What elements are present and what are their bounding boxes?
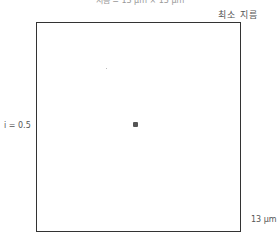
- field-frame: [36, 22, 241, 232]
- scale-label: 13 μm: [251, 215, 277, 224]
- minimum-diameter-label: 최소 지름: [218, 8, 258, 21]
- intensity-label: i = 0.5: [4, 121, 31, 130]
- faint-speck: [106, 68, 107, 69]
- top-caption: 지름 = 13 μm × 13 μm: [60, 0, 220, 5]
- center-spot: [133, 122, 138, 127]
